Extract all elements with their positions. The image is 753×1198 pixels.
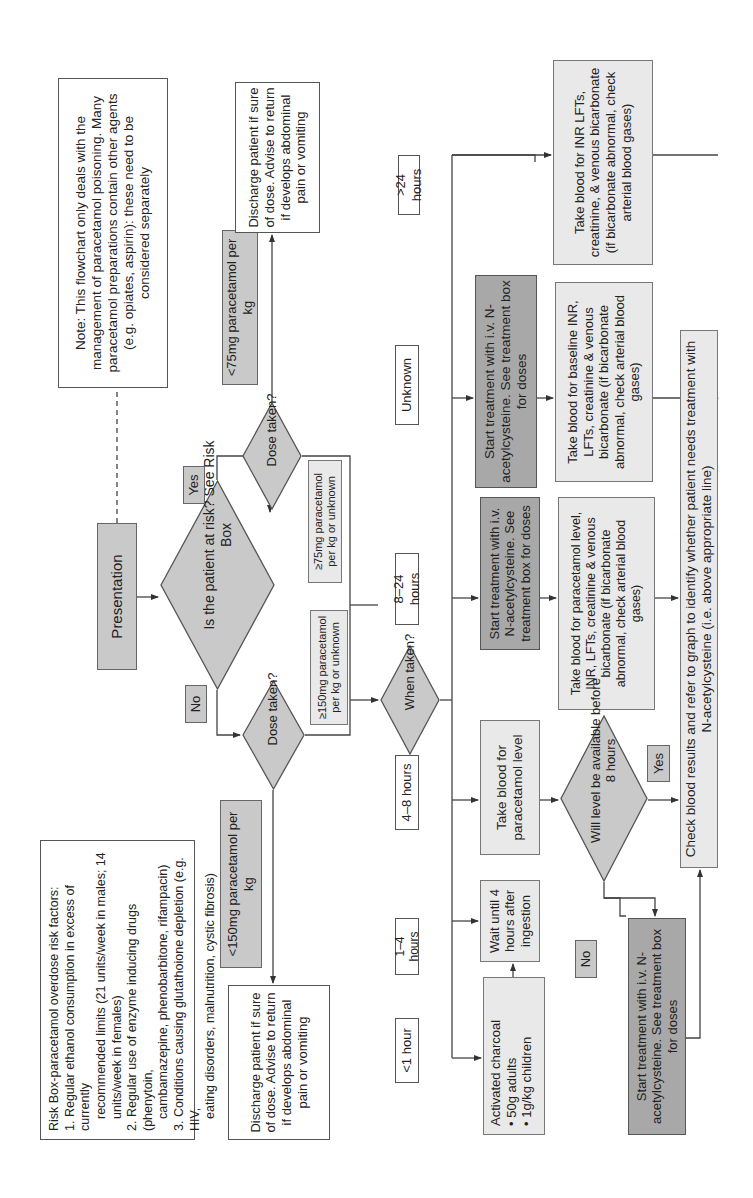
lt150-box: <150mg paracetamol per kg: [220, 800, 262, 968]
charcoal-title: Activated charcoal: [488, 1020, 504, 1126]
activated-charcoal-box: Activated charcoal • 50g adults • 1g/kg …: [483, 977, 545, 1135]
risk-box: Risk Box-paracetamol overdose risk facto…: [40, 840, 195, 1140]
discharge-top-box: Discharge patient if sure of dose. Advis…: [235, 82, 320, 233]
risk-line-5: cambamazepine, phenobarbitone, rifampaci…: [156, 865, 172, 1131]
will-level-text: Will level be available before 8 hours: [560, 639, 648, 882]
no-label-2: No: [575, 940, 597, 978]
risk-line-3: units/week in females): [110, 995, 126, 1131]
take-blood-paracetamol-box: Take blood for paracetamol level: [480, 720, 540, 855]
risk-line-7: eating disorders, malnutrition, cystic f…: [203, 873, 219, 1131]
risk-line-4: 2. Regular use of enzyme inducing drugs …: [125, 849, 156, 1131]
time-label-1-4: 1–4 hours: [395, 918, 419, 975]
time-label-4-8: 4–8 hours: [395, 755, 419, 830]
wait-4h-box: Wait until 4 hours after ingestion: [480, 880, 540, 962]
risk-box-title: Risk Box-paracetamol overdose risk facto…: [47, 886, 63, 1131]
paracetamol-overdose-flowchart: Risk Box-paracetamol overdose risk facto…: [0, 0, 753, 1198]
note-box: Note: This flowchart only deals with the…: [58, 78, 168, 388]
blood-unknown-box: Take blood for baseline INR, LFTs, creat…: [555, 282, 653, 482]
start-nac-8-24-box: Start treatment with i.v. N-acetylcystei…: [480, 497, 540, 650]
ge75-box: ≥75mg paracetamol per kg or unknown: [308, 460, 342, 583]
dose-taken-not-at-risk-decision: Dose taken?: [242, 680, 305, 790]
dose-taken-text: Dose taken?: [242, 628, 305, 790]
time-label-gt24: >24 hours: [398, 155, 420, 215]
risk-line-1: 1. Regular ethanol consumption in excess…: [63, 849, 94, 1131]
check-results-box: Check blood results and refer to graph t…: [680, 330, 718, 868]
dose-taken-at-risk-decision: Dose taken?: [242, 402, 302, 510]
charcoal-bullet-adults: • 50g adults: [504, 1058, 520, 1126]
yes-label-2: Yes: [647, 745, 670, 782]
when-taken-decision: When taken?: [380, 645, 440, 755]
start-nac-unknown-box: Start treatment with i.v. N-acetylcystei…: [475, 275, 537, 488]
start-nac-no-box: Start treatment with i.v. N-acetylcystei…: [628, 918, 686, 1135]
charcoal-bullet-children: • 1g/kg children: [519, 1037, 535, 1126]
presentation-node: Presentation: [97, 523, 137, 670]
blood-gt24-box: Take blood for INR LFTs, creatinine, & v…: [553, 60, 653, 265]
lt75-box: <75mg paracetamol per kg: [222, 230, 258, 385]
discharge-bottom-box: Discharge patient if sure of dose. Advis…: [228, 985, 330, 1140]
will-level-decision: Will level be available before 8 hours: [560, 715, 648, 882]
risk-line-6: 3. Conditions causing glutathoione deple…: [172, 849, 203, 1131]
yes-label: Yes: [183, 466, 205, 504]
risk-line-2: recommended limits (21 units/week in mal…: [94, 852, 110, 1131]
ge150-box: ≥150mg paracetamol per kg or unknown: [310, 610, 348, 725]
time-label-8-24: 8–24 hours: [395, 553, 419, 625]
no-label: No: [185, 685, 207, 723]
time-label-lt1: <1 hour: [395, 1018, 419, 1083]
time-label-unknown: Unknown: [395, 345, 419, 425]
